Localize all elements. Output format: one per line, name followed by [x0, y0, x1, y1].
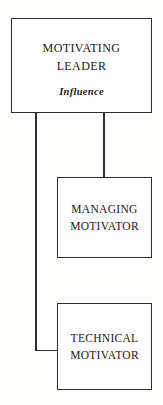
node-managing-motivator-label-line-1: MANAGING: [71, 201, 137, 218]
node-technical-motivator-label-line-2: MOTIVATOR: [70, 347, 139, 364]
connector-leader-to-technical-horizontal: [35, 350, 58, 352]
node-managing-motivator[interactable]: MANAGING MOTIVATOR: [57, 177, 152, 258]
node-motivating-leader-title-line-2: Leader: [57, 56, 107, 74]
node-technical-motivator-label-line-1: TECHNICAL: [71, 330, 139, 347]
node-managing-motivator-label-line-2: MOTIVATOR: [70, 218, 139, 235]
node-motivating-leader-subtitle: Influence: [59, 86, 104, 97]
org-hierarchy-diagram: Motivating Leader Influence MANAGING MOT…: [0, 0, 163, 405]
node-motivating-leader[interactable]: Motivating Leader Influence: [11, 18, 152, 113]
node-technical-motivator[interactable]: TECHNICAL MOTIVATOR: [57, 303, 152, 390]
connector-leader-to-managing: [103, 113, 105, 177]
connector-leader-to-technical-vertical: [35, 113, 37, 351]
node-motivating-leader-title-line-1: Motivating: [43, 38, 121, 56]
